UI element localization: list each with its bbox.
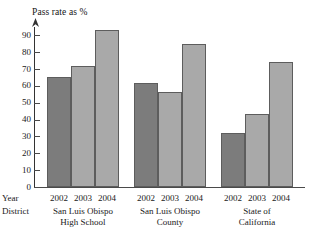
bar-2003 [245, 114, 269, 187]
bar-2004 [269, 62, 293, 187]
y-tick-label: 40 [1, 115, 31, 124]
year-label: 2004 [269, 193, 293, 203]
year-label: 2004 [182, 193, 206, 203]
year-label: 2002 [221, 193, 245, 203]
y-tick-0 [34, 187, 40, 188]
y-tick-label-wrap: 50 [0, 98, 31, 107]
district-label-line1: San Luis Obispo [37, 206, 129, 217]
y-tick-label-wrap: 40 [0, 115, 31, 124]
y-tick-label: 20 [1, 149, 31, 158]
y-tick-label: 70 [1, 65, 31, 74]
bars-layer [35, 27, 305, 187]
district-label: San Luis ObispoCounty [124, 206, 216, 228]
year-label: 2002 [134, 193, 158, 203]
y-tick-label: 90 [1, 31, 31, 40]
year-label: 2003 [158, 193, 182, 203]
year-label: 2004 [95, 193, 119, 203]
bar-chart: Pass rate as % 0102030405060708090 Year … [0, 0, 309, 245]
y-tick-label: 30 [1, 132, 31, 141]
year-label: 2003 [245, 193, 269, 203]
row-header-year: Year [2, 193, 50, 203]
bar-2002 [221, 133, 245, 187]
y-tick-label-wrap: 70 [0, 65, 31, 74]
y-tick-label-wrap: 90 [0, 31, 31, 40]
district-label: San Luis ObispoHigh School [37, 206, 129, 228]
bar-2002 [134, 83, 158, 187]
y-tick-label-wrap: 60 [0, 81, 31, 90]
district-label-line1: State of [211, 206, 303, 217]
bar-2004 [182, 44, 206, 187]
district-label-line2: California [211, 217, 303, 228]
bar-2004 [95, 30, 119, 187]
y-tick-label: 50 [1, 98, 31, 107]
bar-2003 [158, 92, 182, 187]
year-label: 2003 [71, 193, 95, 203]
y-tick-label: 80 [1, 48, 31, 57]
district-label-line2: High School [37, 217, 129, 228]
y-tick-label: 0 [1, 183, 31, 192]
district-label: State ofCalifornia [211, 206, 303, 228]
district-label-line2: County [124, 217, 216, 228]
district-label-line1: San Luis Obispo [124, 206, 216, 217]
y-tick-label-wrap: 30 [0, 132, 31, 141]
bar-2003 [71, 66, 95, 187]
chart-title: Pass rate as % [32, 7, 87, 17]
y-tick-label-wrap: 80 [0, 48, 31, 57]
y-tick-label-wrap: 20 [0, 149, 31, 158]
y-tick-label-wrap: 0 [0, 183, 31, 192]
y-tick-label-wrap: 10 [0, 166, 31, 175]
bar-2002 [47, 77, 71, 187]
y-tick-label: 60 [1, 81, 31, 90]
x-axis-line [34, 187, 305, 188]
year-label: 2002 [47, 193, 71, 203]
y-tick-label: 10 [1, 166, 31, 175]
